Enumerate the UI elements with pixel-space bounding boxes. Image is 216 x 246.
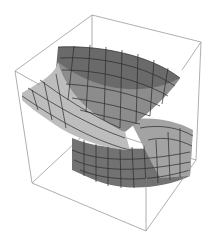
surface-plot bbox=[0, 0, 216, 246]
plot-canvas bbox=[0, 0, 216, 246]
